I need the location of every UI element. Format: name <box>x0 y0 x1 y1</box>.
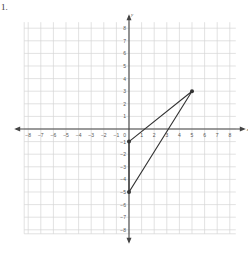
x-tick-label: 2 <box>153 132 156 138</box>
coordinate-plane: yx −8−7−6−5−4−3−2−11234567887654321−1−2−… <box>0 0 248 263</box>
x-tick-label: 7 <box>216 132 219 138</box>
y-tick-label: 4 <box>123 76 126 82</box>
x-axis-right-arrow-icon <box>240 127 246 132</box>
x-tick-label: −8 <box>25 132 31 138</box>
y-tick-label: 6 <box>123 50 126 56</box>
vertex-point <box>127 190 131 194</box>
y-tick-label: 2 <box>123 101 126 107</box>
x-axis-label: x <box>246 127 248 132</box>
x-tick-label: 6 <box>203 132 206 138</box>
y-tick-label: −5 <box>120 189 126 195</box>
y-axis-label: y <box>130 12 134 17</box>
x-tick-label: −3 <box>88 132 94 138</box>
x-tick-label: −4 <box>76 132 82 138</box>
x-tick-label: 8 <box>228 132 231 138</box>
y-axis-down-arrow-icon <box>127 238 132 244</box>
x-tick-label: −5 <box>63 132 69 138</box>
y-tick-label: 1 <box>123 113 126 119</box>
y-tick-label: −2 <box>120 151 126 157</box>
x-tick-label: −7 <box>38 132 44 138</box>
x-axis-left-arrow-icon <box>14 127 20 132</box>
x-tick-label: −6 <box>51 132 57 138</box>
y-tick-label: −3 <box>120 164 126 170</box>
y-tick-label: −6 <box>120 202 126 208</box>
y-tick-label: 7 <box>123 38 126 44</box>
axes: yx <box>14 12 248 244</box>
y-tick-label: −4 <box>120 176 126 182</box>
grid-lines <box>24 22 236 234</box>
x-tick-label: 4 <box>178 132 181 138</box>
y-tick-label: 5 <box>123 63 126 69</box>
y-tick-label: −7 <box>120 214 126 220</box>
vertex-point <box>127 140 131 144</box>
x-tick-label: −2 <box>101 132 107 138</box>
origin-label: 0 <box>123 132 126 138</box>
x-tick-label: 5 <box>191 132 194 138</box>
vertex-point <box>190 89 194 93</box>
y-tick-label: 8 <box>123 25 126 31</box>
x-tick-label: −1 <box>114 132 120 138</box>
y-tick-label: −1 <box>120 139 126 145</box>
y-tick-label: −8 <box>120 227 126 233</box>
y-tick-label: 3 <box>123 88 126 94</box>
